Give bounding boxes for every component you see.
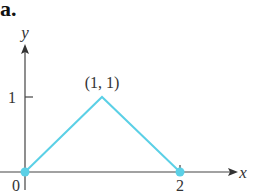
peak-annotation: (1, 1): [85, 74, 120, 92]
y-tick-label-1: 1: [8, 89, 16, 106]
origin-label: 0: [12, 177, 20, 191]
point-2-0: [176, 168, 185, 177]
x-axis-label: x: [238, 163, 247, 182]
x-tick-label-2: 2: [176, 177, 184, 191]
chart: y x 1 0 2 (1, 1): [0, 0, 255, 191]
series-line: [25, 97, 180, 172]
y-axis-label: y: [19, 23, 29, 42]
point-origin: [21, 168, 30, 177]
